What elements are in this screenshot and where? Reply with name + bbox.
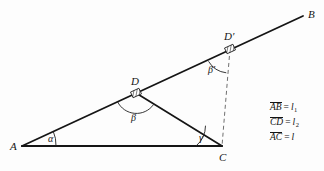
edge-AB	[22, 16, 303, 146]
angle-label-gamma: γ	[199, 133, 203, 143]
legend-subscript-CD: 2	[296, 121, 299, 128]
angle-label-beta-prime: β′	[208, 65, 215, 75]
legend-row-CD: CD = l 2	[270, 117, 322, 132]
diagram-canvas: A B C D D′ α β γ β′ AB = l 1 CD = l 2 AC…	[0, 0, 324, 171]
legend-row-AC: AC = l	[270, 132, 322, 147]
legend-equals-CD: =	[285, 117, 290, 127]
legend-value-AC: l	[292, 132, 295, 142]
vertex-label-A: A	[10, 141, 17, 152]
angle-label-beta: β	[131, 113, 136, 123]
legend-subscript-AB: 1	[294, 106, 297, 113]
angle-label-alpha: α	[48, 134, 53, 144]
vertex-label-D-prime: D′	[224, 31, 234, 42]
vertex-label-B: B	[308, 9, 315, 20]
legend-row-AB: AB = l 1	[270, 102, 322, 117]
legend-segment-AC: AC	[270, 132, 282, 143]
point-marker-Dprime	[225, 44, 236, 53]
measurements-legend: AB = l 1 CD = l 2 AC = l	[270, 102, 322, 147]
legend-equals-AC: =	[284, 132, 289, 142]
edge-Dprime-C	[222, 49, 230, 146]
vertex-label-D: D	[131, 76, 139, 87]
legend-segment-AB: AB	[270, 102, 282, 113]
edge-DC	[136, 93, 222, 146]
angle-arc-alpha	[53, 131, 56, 146]
legend-equals-AB: =	[284, 102, 289, 112]
vertex-label-C: C	[219, 152, 226, 163]
legend-segment-CD: CD	[270, 117, 283, 128]
